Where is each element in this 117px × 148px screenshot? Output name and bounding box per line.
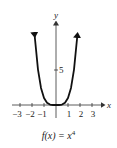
caption-text: f(x) = x — [42, 130, 72, 141]
caption-exponent: 4 — [72, 129, 76, 137]
x-tick-labels: −3 −2 −1 1 2 3 — [12, 109, 96, 119]
y-axis-label: y — [53, 10, 58, 20]
svg-text:3: 3 — [91, 109, 96, 119]
svg-text:1: 1 — [67, 109, 72, 119]
chart-svg: x y −3 −2 −1 1 2 3 5 — [0, 0, 117, 148]
function-caption: f(x) = x4 — [0, 129, 117, 141]
svg-text:−1: −1 — [37, 109, 47, 119]
svg-text:2: 2 — [79, 109, 84, 119]
svg-text:−3: −3 — [12, 109, 22, 119]
y-tick-label-5: 5 — [59, 65, 64, 75]
x-axis-label: x — [106, 100, 111, 110]
svg-text:−2: −2 — [25, 109, 35, 119]
